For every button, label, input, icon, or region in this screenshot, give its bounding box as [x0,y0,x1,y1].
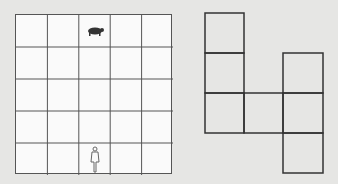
cube-net [0,0,338,184]
